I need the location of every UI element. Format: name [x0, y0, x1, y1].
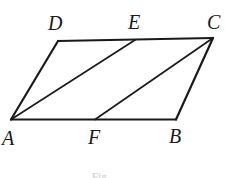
vertex-label-a: A	[2, 128, 14, 148]
vertex-label-d: D	[48, 13, 62, 33]
segment-AE	[11, 40, 135, 120]
figure-caption: Fig.	[92, 171, 109, 178]
vertex-label-b: B	[169, 126, 181, 146]
vertex-label-e: E	[128, 12, 140, 32]
geometry-figure: D E C A F B Fig.	[0, 0, 225, 178]
vertex-label-f: F	[88, 127, 100, 147]
edge-AD	[11, 41, 58, 120]
vertex-label-c: C	[207, 12, 220, 32]
parallelogram-drawing	[0, 0, 225, 178]
